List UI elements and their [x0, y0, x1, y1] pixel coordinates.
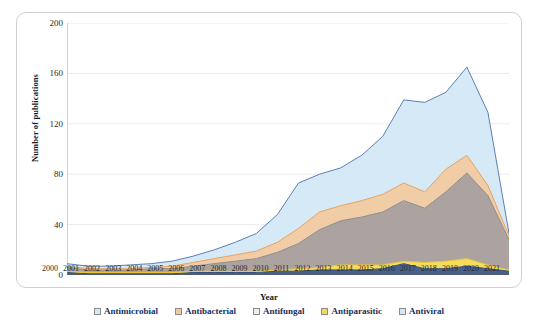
legend-swatch-icon	[175, 308, 182, 315]
x-tick-label: 2015	[358, 264, 374, 273]
x-tick-label: 2002	[84, 264, 100, 273]
legend-label: Antimicrobial	[104, 306, 158, 316]
x-tick-label: 2019	[442, 264, 458, 273]
chart-svg	[67, 23, 509, 275]
chart-card: Number of publications 04080120160200	[16, 12, 522, 288]
x-tick-label: 2020	[463, 264, 479, 273]
x-axis-label: Year	[0, 292, 538, 302]
legend-label: Antifungal	[263, 306, 305, 316]
x-tick-label: 2005	[147, 264, 163, 273]
legend-item-antimicrobial[interactable]: Antimicrobial	[94, 306, 158, 316]
legend-swatch-icon	[321, 308, 328, 315]
legend-swatch-icon	[253, 308, 260, 315]
x-tick-label: 2018	[421, 264, 437, 273]
legend-swatch-icon	[94, 308, 101, 315]
x-tick-label: 2017	[400, 264, 416, 273]
x-tick-label: 2010	[252, 264, 268, 273]
chart-legend: AntimicrobialAntibacterialAntifungalAnti…	[0, 306, 538, 316]
y-tick-label: 80	[29, 169, 63, 179]
legend-item-antiparasitic[interactable]: Antiparasitic	[321, 306, 382, 316]
x-tick-label: 2007	[189, 264, 205, 273]
x-tick-label: 2004	[126, 264, 142, 273]
x-tick-label: 2008	[210, 264, 226, 273]
x-tick-label: 2012	[295, 264, 311, 273]
y-tick-label: 40	[29, 220, 63, 230]
y-tick-label: 120	[29, 119, 63, 129]
x-tick-label: 2013	[316, 264, 332, 273]
stacked-area-plot	[67, 23, 509, 275]
x-tick-label: 2006	[168, 264, 184, 273]
legend-label: Antiparasitic	[331, 306, 382, 316]
legend-item-antiviral[interactable]: Antiviral	[399, 306, 444, 316]
legend-label: Antiviral	[409, 306, 444, 316]
legend-item-antifungal[interactable]: Antifungal	[253, 306, 305, 316]
x-tick-label: 2000	[42, 264, 58, 273]
legend-item-antibacterial[interactable]: Antibacterial	[175, 306, 236, 316]
x-tick-label: 2011	[274, 264, 290, 273]
y-axis-ticks: 04080120160200	[29, 13, 63, 289]
x-tick-label: 2014	[337, 264, 353, 273]
y-tick-label: 160	[29, 68, 63, 78]
x-axis-ticks: 2000200120022003200420052006200720082009…	[50, 264, 492, 278]
x-tick-label: 2001	[63, 264, 79, 273]
legend-swatch-icon	[399, 308, 406, 315]
legend-label: Antibacterial	[185, 306, 236, 316]
x-tick-label: 2003	[105, 264, 121, 273]
x-tick-label: 2009	[231, 264, 247, 273]
y-tick-label: 200	[29, 18, 63, 28]
x-tick-label: 2016	[379, 264, 395, 273]
x-tick-label: 2021	[484, 264, 500, 273]
